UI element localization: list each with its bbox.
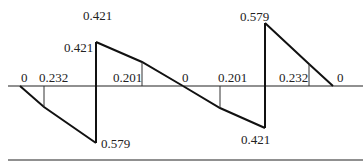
label-zero-left: 0 [21,70,28,85]
shear-diagram: 0.421 0.421 0.579 0.579 0.421 0 0.232 0.… [0,0,363,163]
label-0201-right: 0.201 [218,70,247,85]
label-0232-right: 0.232 [279,70,308,85]
label-0232-left: 0.232 [39,70,68,85]
label-bottom-0421: 0.421 [241,132,270,147]
label-jump-0421: 0.421 [64,40,93,55]
label-top-0421: 0.421 [83,8,112,23]
label-top-0579: 0.579 [240,9,269,24]
span-1-line [20,86,96,143]
span-3-line [183,86,265,128]
label-zero-right: 0 [337,70,344,85]
label-bottom-0579: 0.579 [101,136,130,151]
label-zero-mid: 0 [182,70,189,85]
label-0201-left: 0.201 [113,70,142,85]
